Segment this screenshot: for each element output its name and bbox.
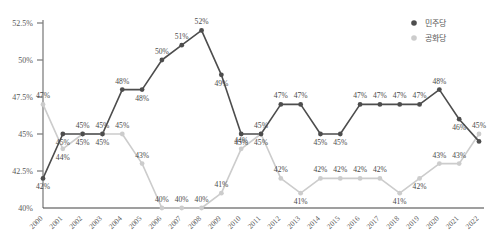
x-tick-label: 2018 bbox=[384, 214, 401, 231]
data-point-label: 45% bbox=[56, 138, 71, 147]
x-tick-label: 2011 bbox=[246, 214, 263, 231]
data-point-label: 40% bbox=[175, 195, 190, 204]
data-point-label: 48% bbox=[135, 94, 150, 103]
data-point bbox=[80, 132, 85, 137]
data-point-label: 49% bbox=[214, 79, 229, 88]
data-point-label: 47% bbox=[274, 91, 289, 100]
data-point bbox=[219, 191, 224, 196]
data-point-label: 42% bbox=[333, 165, 348, 174]
data-point-label: 45% bbox=[95, 138, 110, 147]
data-point bbox=[41, 102, 46, 107]
data-point bbox=[358, 102, 363, 107]
data-point-label: 46% bbox=[452, 123, 467, 132]
data-point-label: 47% bbox=[413, 91, 428, 100]
legend-label-0[interactable]: 민주당 bbox=[425, 18, 447, 28]
data-point bbox=[120, 87, 125, 92]
line-chart-container: 40%42.5%45%47.5%50%52.5%2000200120022003… bbox=[0, 0, 487, 247]
x-tick-label: 2021 bbox=[444, 214, 461, 231]
x-tick-label: 2005 bbox=[127, 214, 144, 231]
data-point-label: 47% bbox=[393, 91, 408, 100]
data-point bbox=[120, 132, 125, 137]
legend-marker-1[interactable] bbox=[411, 35, 417, 41]
data-point bbox=[457, 161, 462, 166]
data-point bbox=[457, 117, 462, 122]
data-point bbox=[298, 191, 303, 196]
data-point bbox=[41, 176, 46, 181]
y-tick-label: 47.5% bbox=[12, 93, 33, 102]
x-tick-label: 2006 bbox=[147, 214, 164, 231]
y-tick-label: 50% bbox=[18, 56, 33, 65]
data-point bbox=[318, 132, 323, 137]
data-point-label: 45% bbox=[76, 121, 91, 130]
x-tick-label: 2008 bbox=[186, 214, 203, 231]
data-point-label: 45% bbox=[95, 121, 110, 130]
data-point bbox=[259, 132, 264, 137]
data-point-label: 47% bbox=[294, 91, 309, 100]
data-point-label: 51% bbox=[175, 32, 190, 41]
data-point bbox=[278, 176, 283, 181]
data-point-label: 47% bbox=[373, 91, 388, 100]
data-point bbox=[437, 87, 442, 92]
data-point bbox=[160, 206, 165, 211]
data-point-label: 47% bbox=[36, 91, 51, 100]
y-tick-label: 42.5% bbox=[12, 167, 33, 176]
y-tick-label: 45% bbox=[18, 130, 33, 139]
data-point bbox=[140, 161, 145, 166]
data-point-label: 41% bbox=[294, 197, 309, 206]
data-point-label: 48% bbox=[432, 77, 447, 86]
data-point-label: 41% bbox=[393, 197, 408, 206]
x-tick-label: 2017 bbox=[365, 214, 382, 231]
data-point bbox=[417, 176, 422, 181]
data-point bbox=[358, 176, 363, 181]
data-point bbox=[199, 206, 204, 211]
data-point-label: 45% bbox=[234, 138, 249, 147]
x-tick-label: 2001 bbox=[47, 214, 64, 231]
data-point-label: 43% bbox=[432, 151, 447, 160]
x-tick-label: 2000 bbox=[28, 214, 45, 231]
data-point bbox=[338, 176, 343, 181]
data-point-label: 45% bbox=[472, 121, 487, 130]
x-tick-label: 2003 bbox=[87, 214, 104, 231]
data-point-label: 40% bbox=[195, 195, 210, 204]
y-tick-label: 40% bbox=[18, 204, 33, 213]
data-point bbox=[179, 43, 184, 48]
data-point-label: 43% bbox=[452, 151, 467, 160]
data-point-label: 42% bbox=[36, 182, 51, 191]
data-point-label: 42% bbox=[373, 165, 388, 174]
data-point bbox=[338, 132, 343, 137]
data-point-label: 44% bbox=[56, 153, 71, 162]
x-tick-label: 2012 bbox=[265, 214, 282, 231]
x-tick-label: 2009 bbox=[206, 214, 223, 231]
x-tick-label: 2002 bbox=[67, 214, 84, 231]
data-point-label: 47% bbox=[353, 91, 368, 100]
data-point bbox=[60, 132, 65, 137]
data-point bbox=[318, 176, 323, 181]
data-point bbox=[199, 28, 204, 33]
data-point bbox=[417, 102, 422, 107]
data-point bbox=[100, 132, 105, 137]
x-tick-label: 2020 bbox=[424, 214, 441, 231]
data-point bbox=[60, 146, 65, 151]
data-point bbox=[477, 139, 482, 144]
data-point bbox=[477, 132, 482, 137]
data-point-label: 42% bbox=[413, 182, 428, 191]
data-point bbox=[437, 161, 442, 166]
data-point-label: 45% bbox=[254, 121, 269, 130]
data-point-label: 52% bbox=[195, 17, 210, 26]
series-line-0 bbox=[43, 30, 479, 178]
data-point-label: 50% bbox=[155, 47, 170, 56]
x-tick-label: 2016 bbox=[345, 214, 362, 231]
x-tick-label: 2014 bbox=[305, 214, 322, 231]
legend-label-1[interactable]: 공화당 bbox=[425, 33, 447, 43]
data-point bbox=[219, 72, 224, 77]
data-point bbox=[160, 58, 165, 63]
data-point-label: 42% bbox=[313, 165, 328, 174]
x-tick-label: 2013 bbox=[285, 214, 302, 231]
legend-marker-0[interactable] bbox=[411, 20, 417, 26]
data-point-label: 40% bbox=[155, 195, 170, 204]
data-point bbox=[278, 102, 283, 107]
y-tick-label: 52.5% bbox=[12, 19, 33, 28]
data-point bbox=[239, 146, 244, 151]
data-point-label: 48% bbox=[115, 77, 130, 86]
data-point-label: 42% bbox=[353, 165, 368, 174]
